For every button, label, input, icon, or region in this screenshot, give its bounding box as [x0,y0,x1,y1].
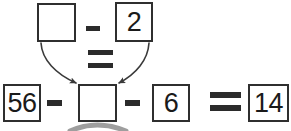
box-top-empty[interactable] [37,3,76,42]
equals-right-bar-bottom [209,104,242,112]
box-fifty-six-value: 56 [7,90,36,117]
equals-right-bar-top [209,91,242,99]
box-fifty-six[interactable]: 56 [3,84,41,122]
shadow-arc [70,125,126,131]
box-six-value: 6 [164,90,179,117]
box-top-two-value: 2 [127,9,142,36]
box-bottom-empty[interactable] [78,84,117,122]
box-top-two[interactable]: 2 [115,2,153,42]
minus-operator-bottom-2 [124,99,141,107]
equals-bar-top [87,49,114,56]
box-fourteen-value: 14 [254,90,283,117]
minus-operator-bottom-1 [46,99,63,107]
equals-operator-right [209,91,240,113]
box-six[interactable]: 6 [152,84,190,122]
arrow-left-down [41,43,76,83]
box-fourteen[interactable]: 14 [248,84,289,122]
equals-operator-middle [87,49,112,70]
equals-bar-bottom [87,62,114,69]
minus-operator-top [85,25,101,32]
diagram-canvas: 2 56 6 14 [0,0,291,131]
arrow-right-down [119,43,149,83]
